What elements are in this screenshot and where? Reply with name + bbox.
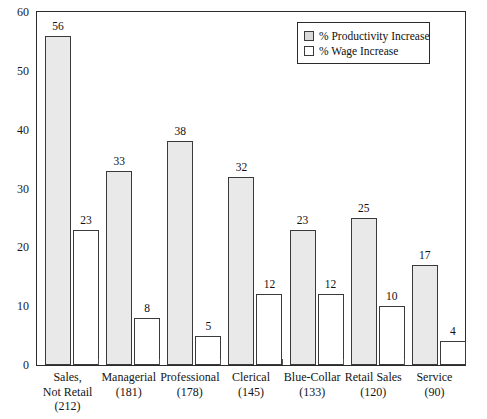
y-tick-label: 30 — [17, 183, 29, 195]
chart-figure: 0102030405060 5623338385321223122510174 … — [0, 0, 487, 419]
x-group-tick — [404, 359, 405, 365]
x-group-tick — [159, 359, 160, 365]
bar-wage — [195, 336, 221, 365]
bar-value-label: 38 — [175, 126, 187, 137]
x-group-tick — [98, 359, 99, 365]
x-group-tick — [343, 359, 344, 365]
x-group-tick — [282, 359, 283, 365]
x-category-label: Managerial(181) — [101, 370, 156, 399]
x-category-label-line: Managerial — [101, 370, 156, 385]
x-category-label: Sales,Not Retail(212) — [43, 370, 93, 414]
white-square-icon — [304, 46, 314, 56]
bar-value-label: 23 — [80, 215, 92, 226]
bar-value-label: 4 — [450, 326, 456, 337]
bar-productivity — [228, 177, 254, 365]
x-category-label-line: Sales, — [43, 370, 93, 385]
chart-legend: % Productivity Increase% Wage Increase — [297, 22, 430, 64]
y-tick-label: 60 — [17, 6, 29, 18]
bar-value-label: 12 — [264, 279, 276, 290]
x-category-label-line: Not Retail — [43, 385, 93, 400]
y-tick-label: 40 — [17, 124, 29, 136]
x-category-label-line: (133) — [284, 385, 341, 400]
bar-value-label: 33 — [113, 156, 125, 167]
bar-value-label: 10 — [386, 291, 398, 302]
bar-wage — [440, 341, 466, 365]
bar-productivity — [290, 230, 316, 365]
bar-value-label: 23 — [297, 215, 309, 226]
bar-productivity — [167, 141, 193, 365]
x-category-label-line: Retail Sales — [345, 370, 402, 385]
x-category-label: Professional(178) — [160, 370, 219, 399]
legend-item: % Productivity Increase — [304, 28, 422, 43]
x-category-label-line: Blue-Collar — [284, 370, 341, 385]
x-category-label-line: Clerical — [232, 370, 270, 385]
x-category-label-line: Service — [416, 370, 452, 385]
bar-productivity — [106, 171, 132, 365]
legend-item: % Wage Increase — [304, 43, 422, 58]
x-axis: Sales,Not Retail(212)Managerial(181)Prof… — [37, 370, 465, 419]
bar-productivity — [412, 265, 438, 365]
x-category-label: Service(90) — [416, 370, 452, 399]
x-category-label-line: Professional — [160, 370, 219, 385]
bar-value-label: 8 — [144, 303, 150, 314]
legend-item-label: % Wage Increase — [319, 45, 398, 57]
x-category-label-line: (212) — [43, 399, 93, 414]
y-tick-label: 10 — [17, 300, 29, 312]
bar-wage — [318, 294, 344, 365]
x-category-label: Clerical(145) — [232, 370, 270, 399]
x-category-label-line: (120) — [345, 385, 402, 400]
y-tick-label: 20 — [17, 241, 29, 253]
bar-wage — [379, 306, 405, 365]
plot-area: 5623338385321223122510174 — [37, 12, 465, 365]
bar-productivity — [45, 36, 71, 365]
bar-value-label: 32 — [236, 162, 248, 173]
legend-item-label: % Productivity Increase — [319, 30, 430, 42]
x-category-label-line: (145) — [232, 385, 270, 400]
x-category-label-line: (90) — [416, 385, 452, 400]
bar-value-label: 5 — [205, 321, 211, 332]
x-category-label-line: (178) — [160, 385, 219, 400]
bar-value-label: 17 — [419, 250, 431, 261]
bar-wage — [256, 294, 282, 365]
x-category-label: Blue-Collar(133) — [284, 370, 341, 399]
y-tick-label: 0 — [23, 359, 29, 371]
bar-value-label: 25 — [358, 203, 370, 214]
y-axis: 0102030405060 — [0, 0, 36, 419]
gray-filled-square-icon — [304, 31, 314, 41]
bar-wage — [134, 318, 160, 365]
y-tick-label: 50 — [17, 65, 29, 77]
x-group-tick — [220, 359, 221, 365]
x-category-label: Retail Sales(120) — [345, 370, 402, 399]
x-category-label-line: (181) — [101, 385, 156, 400]
bar-productivity — [351, 218, 377, 365]
bar-value-label: 56 — [52, 21, 64, 32]
bar-wage — [73, 230, 99, 365]
bar-value-label: 12 — [325, 279, 337, 290]
